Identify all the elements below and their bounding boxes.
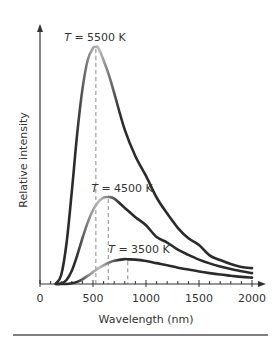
y-axis-title: Relative intensity: [17, 112, 30, 208]
x-tick-label: 500: [83, 292, 104, 305]
curve-label-5500: T = 5500 K: [64, 31, 126, 44]
blackbody-radiation-chart: 0500100015002000 Wavelength (nm) Relativ…: [0, 0, 280, 343]
y-axis-arrow-icon: [37, 24, 43, 32]
x-tick-label: 1500: [185, 292, 213, 305]
curve-3500k: [56, 259, 252, 284]
curve-label-4500: T = 4500 K: [91, 182, 153, 195]
x-tick-label: 1000: [132, 292, 160, 305]
x-tick-label: 2000: [238, 292, 266, 305]
curve-4500k: [56, 197, 252, 284]
curve-label-3500: T = 3500 K: [108, 243, 170, 256]
x-tick-labels: 0500100015002000: [37, 292, 267, 305]
x-ticks: [40, 280, 252, 287]
x-axis-arrow-icon: [258, 281, 266, 287]
x-axis-title: Wavelength (nm): [98, 313, 193, 326]
x-tick-label: 0: [37, 292, 44, 305]
